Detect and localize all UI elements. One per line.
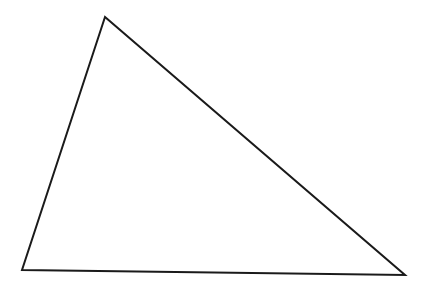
triangle-canvas bbox=[0, 0, 435, 294]
triangle-shape bbox=[22, 17, 405, 275]
